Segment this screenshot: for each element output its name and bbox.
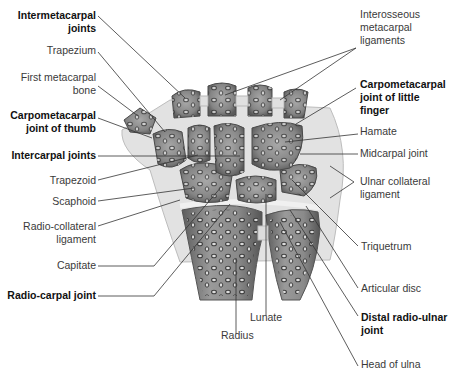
label-line: Intercarpal joints: [0, 149, 96, 162]
label-radius: Radius: [221, 329, 254, 342]
label-line: Lunate: [250, 311, 282, 324]
label-capitate: Capitate: [10, 259, 96, 272]
label-line: Ulnar collateral: [360, 175, 454, 188]
label-carpometacarpal-joint-of-thumb: Carpometacarpal joint of thumb: [6, 109, 96, 135]
label-line: ligaments: [360, 34, 454, 47]
label-line: joints: [10, 22, 96, 35]
label-radio-collateral-ligament: Radio-collateral ligament: [6, 220, 96, 246]
label-head-of-ulna: Head of ulna: [361, 358, 454, 371]
label-line: Articular disc: [361, 282, 454, 295]
label-midcarpal-joint: Midcarpal joint: [360, 147, 454, 160]
label-first-metacarpal-bone: First metacarpal bone: [6, 71, 96, 97]
label-trapezium: Trapezium: [10, 44, 96, 57]
label-line: Carpometacarpal: [6, 109, 96, 122]
radius-bone: [182, 205, 262, 300]
label-line: Trapezium: [10, 44, 96, 57]
label-line: metacarpal: [360, 21, 454, 34]
wrist-joints-diagram: Intermetacarpal joints Trapezium First m…: [0, 0, 454, 376]
ulna-bone: [266, 210, 320, 300]
label-hamate: Hamate: [360, 125, 454, 138]
label-line: First metacarpal: [6, 71, 96, 84]
label-line: Radius: [221, 329, 254, 342]
label-ulnar-collateral-ligament: Ulnar collateral ligament: [360, 175, 454, 201]
label-line: joint of little: [360, 91, 454, 104]
label-line: Midcarpal joint: [360, 147, 454, 160]
label-intermetacarpal-joints: Intermetacarpal joints: [10, 9, 96, 35]
label-carpometacarpal-joint-of-little-finger: Carpometacarpal joint of little finger: [360, 78, 454, 117]
label-line: ligament: [6, 233, 96, 246]
label-line: joint: [361, 324, 454, 337]
label-trapezoid: Trapezoid: [10, 174, 96, 187]
label-line: Interosseous: [360, 8, 454, 21]
label-line: finger: [360, 104, 454, 117]
label-line: Radio-collateral: [6, 220, 96, 233]
label-line: bone: [6, 84, 96, 97]
label-line: Carpometacarpal: [360, 78, 454, 91]
label-line: Triquetrum: [361, 240, 454, 253]
label-line: Hamate: [360, 125, 454, 138]
label-triquetrum: Triquetrum: [361, 240, 454, 253]
label-interosseous-metacarpal-ligaments: Interosseous metacarpal ligaments: [360, 8, 454, 47]
label-line: Scaphoid: [10, 195, 96, 208]
label-line: Head of ulna: [361, 358, 454, 371]
label-line: Intermetacarpal: [10, 9, 96, 22]
label-line: ligament: [360, 188, 454, 201]
distal-radio-ulnar-joint-space: [258, 226, 268, 240]
label-articular-disc: Articular disc: [361, 282, 454, 295]
label-line: Capitate: [10, 259, 96, 272]
label-distal-radio-ulnar-joint: Distal radio-ulnar joint: [361, 311, 454, 337]
label-line: Trapezoid: [10, 174, 96, 187]
label-lunate: Lunate: [250, 311, 282, 324]
label-line: Distal radio-ulnar: [361, 311, 454, 324]
label-intercarpal-joints: Intercarpal joints: [0, 149, 96, 162]
label-radio-carpal-joint: Radio-carpal joint: [0, 289, 96, 302]
label-scaphoid: Scaphoid: [10, 195, 96, 208]
label-line: joint of thumb: [6, 122, 96, 135]
label-line: Radio-carpal joint: [0, 289, 96, 302]
